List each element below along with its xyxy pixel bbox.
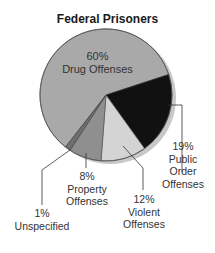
label-violent-line1: Violent — [118, 206, 170, 219]
label-public-order: 19% Public Order Offenses — [158, 140, 208, 190]
label-public-order-line2: Order — [158, 165, 208, 178]
label-drug-name: Drug Offenses — [50, 63, 145, 76]
label-public-order-line1: Public — [158, 153, 208, 166]
label-public-order-pct: 19% — [158, 140, 208, 153]
label-unspecified-name: Unspecified — [10, 220, 74, 233]
label-property-line1: Property — [62, 183, 112, 196]
label-violent-line2: Offenses — [118, 218, 170, 231]
label-unspecified: 1% Unspecified — [10, 207, 74, 232]
label-property-pct: 8% — [62, 170, 112, 183]
label-property: 8% Property Offenses — [62, 170, 112, 208]
label-public-order-line3: Offenses — [158, 178, 208, 191]
label-violent-pct: 12% — [118, 193, 170, 206]
label-unspecified-pct: 1% — [10, 207, 74, 220]
label-violent: 12% Violent Offenses — [118, 193, 170, 231]
label-drug-offenses: 60% Drug Offenses — [50, 50, 145, 75]
label-property-line2: Offenses — [62, 195, 112, 208]
label-drug-pct: 60% — [50, 50, 145, 63]
